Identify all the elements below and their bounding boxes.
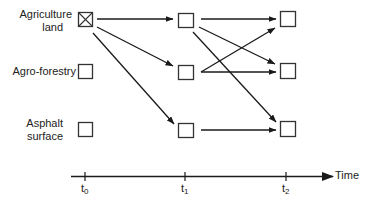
- arrow-t1-agroforestry-to-t2-agri: [201, 28, 275, 72]
- node-t0-agriculture: [79, 13, 93, 27]
- tick-label-t1: t1: [181, 182, 189, 196]
- node-t1-agriculture: [179, 14, 194, 28]
- node-t1-asphalt: [179, 124, 194, 138]
- tick-sub: 0: [84, 187, 88, 196]
- node-t0-asphalt: [79, 123, 93, 137]
- time-axis: [71, 172, 333, 181]
- time-axis-label: Time: [335, 169, 359, 181]
- arrow-t1-agri-to-t2-asphalt: [193, 32, 276, 122]
- tick-sub: 1: [184, 187, 188, 196]
- arrow-t1-agri-to-t2-agroforestry: [199, 27, 275, 64]
- transition-diagram: [0, 0, 373, 202]
- arrow-t0-agri-to-t1-asphalt: [93, 33, 174, 124]
- node-t1-agroforestry: [179, 66, 194, 80]
- tick-label-t0: t0: [81, 182, 89, 196]
- arrow-t0-agri-to-t1-agroforestry: [97, 27, 173, 66]
- node-t2-agroforestry: [281, 64, 296, 79]
- tick-label-t2: t2: [282, 182, 290, 196]
- node-t0-agroforestry: [79, 65, 93, 79]
- node-t2-asphalt: [281, 122, 296, 137]
- node-t2-agriculture: [281, 12, 296, 27]
- tick-sub: 2: [285, 187, 289, 196]
